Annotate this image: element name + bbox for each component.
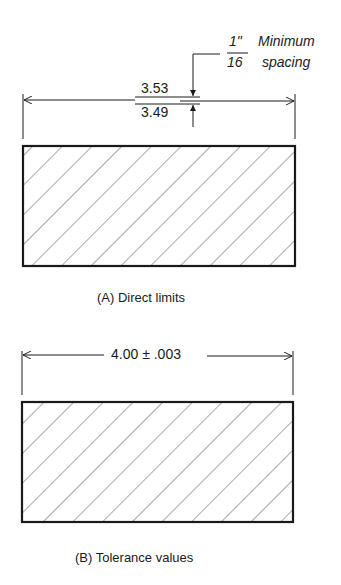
hatched-part-b: [22, 402, 293, 522]
caption-b: (B) Tolerance values: [75, 550, 193, 565]
fraction-denominator: 16: [227, 54, 243, 70]
figure-b: [22, 351, 293, 522]
note-minimum: Minimum: [258, 33, 315, 49]
fraction-numerator: 1": [229, 33, 242, 49]
note-spacing: spacing: [262, 54, 310, 70]
upper-limit: 3.53: [141, 80, 168, 96]
lower-limit: 3.49: [141, 104, 168, 120]
hatched-part-a: [23, 146, 295, 266]
spacing-leader: [193, 54, 220, 96]
caption-a: (A) Direct limits: [97, 290, 185, 305]
tolerance-dimension: 4.00 ± .003: [111, 346, 181, 362]
